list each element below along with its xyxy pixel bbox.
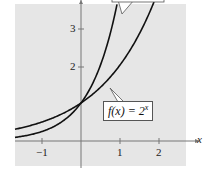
- tick-label-y-3: 3: [70, 22, 76, 34]
- callout-f-label: f(x) = 2x: [103, 101, 153, 121]
- plot-background: [15, 4, 186, 166]
- tick-label-x-1: 1: [117, 146, 123, 158]
- plot-canvas: [0, 0, 210, 172]
- tick-label-x-2: 2: [156, 146, 162, 158]
- tick-label-x-neg1: −1: [36, 146, 48, 158]
- x-axis-label: x: [197, 133, 202, 145]
- y-axis-arrow-icon: [79, 0, 83, 4]
- callout-g-box: [112, 0, 164, 2]
- tick-label-y-2: 2: [70, 60, 76, 72]
